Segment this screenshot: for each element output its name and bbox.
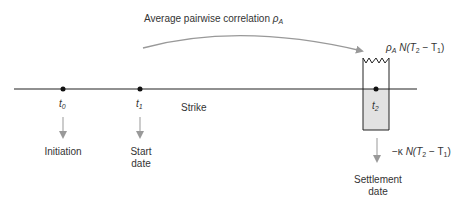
- label-t2: t2: [372, 100, 379, 115]
- payoff-top: ρA N(T2 − T1): [386, 42, 444, 57]
- label-t1: t1: [136, 98, 143, 113]
- dot-t1: [138, 87, 143, 92]
- correlation-arc-arrow: [143, 36, 362, 51]
- caption-initiation: Initiation: [38, 146, 88, 158]
- arc-label: Average pairwise correlation ρA: [144, 13, 283, 28]
- dot-t0: [61, 87, 66, 92]
- label-t0: t0: [59, 98, 66, 113]
- zigzag-top: [363, 58, 389, 63]
- caption-start-date: Start date: [126, 146, 156, 170]
- strike-label: Strike: [181, 102, 207, 114]
- payoff-bottom: −κ N(T2 − T1): [392, 146, 451, 161]
- caption-settlement-date: Settlement date: [350, 174, 406, 198]
- dot-t2: [374, 87, 379, 92]
